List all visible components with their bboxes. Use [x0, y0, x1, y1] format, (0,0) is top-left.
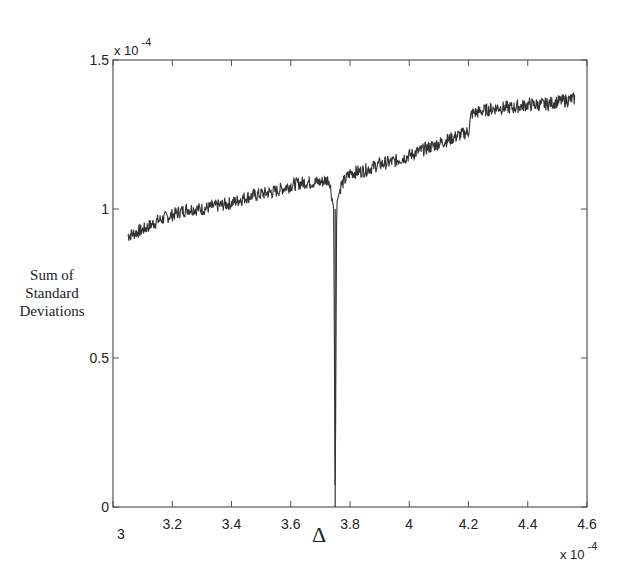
y-axis-multiplier: x 10-4: [114, 36, 151, 58]
y-axis-label-line-3: Deviations: [0, 302, 104, 320]
data-series: [128, 93, 575, 507]
x-tick-label: 4: [405, 516, 413, 532]
y-tick-label: 1.5: [90, 52, 110, 68]
x-tick-label: 3.6: [281, 516, 301, 532]
y-axis-label-line-1: Sum of: [0, 266, 104, 284]
x-tick-label: 4.6: [577, 516, 597, 532]
x-tick-label: 4.2: [459, 516, 479, 532]
y-tick-label: 0: [101, 499, 109, 515]
x-tick-label: 3: [117, 526, 125, 542]
y-axis-label: Sum of Standard Deviations: [0, 266, 104, 320]
x-axis-multiplier: x 10-4: [560, 540, 597, 562]
y-tick-label: 1: [101, 201, 109, 217]
axis-ticks: [113, 60, 587, 507]
x-tick-label: 4.4: [518, 516, 538, 532]
x-axis-label: Δ: [312, 522, 326, 548]
x-tick-label: 3.4: [222, 516, 242, 532]
data-line: [128, 93, 575, 485]
y-tick-label: 0.5: [90, 350, 110, 366]
y-axis-label-line-2: Standard: [0, 284, 104, 302]
x-tick-label: 3.2: [163, 516, 183, 532]
tick-labels: 33.23.43.63.844.24.44.600.511.5: [90, 52, 597, 542]
axes-frame: [113, 60, 587, 507]
x-tick-label: 3.8: [340, 516, 360, 532]
